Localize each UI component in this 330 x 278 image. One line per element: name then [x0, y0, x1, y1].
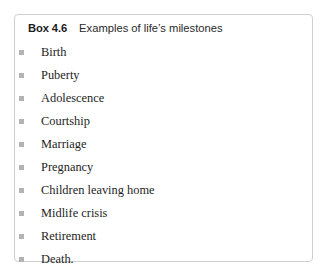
list-item: Pregnancy [15, 156, 312, 179]
list-item-label: Adolescence [41, 91, 104, 105]
list-item: Courtship [15, 110, 312, 133]
box-header: Box 4.6Examples of life’s milestones [28, 22, 223, 34]
square-bullet-icon [19, 96, 24, 101]
list-item: Birth [15, 41, 312, 64]
list-item: Children leaving home [15, 179, 312, 202]
list-item: Death. [15, 248, 312, 271]
list-item-label: Marriage [41, 137, 86, 151]
square-bullet-icon [19, 73, 24, 78]
list-item-label: Children leaving home [41, 183, 155, 197]
list-item: Marriage [15, 133, 312, 156]
list-item: Retirement [15, 225, 312, 248]
list-item-label: Pregnancy [41, 160, 93, 174]
list-item-label: Courtship [41, 114, 90, 128]
list-item: Adolescence [15, 87, 312, 110]
list-item-label: Midlife crisis [41, 206, 107, 220]
square-bullet-icon [19, 50, 24, 55]
square-bullet-icon [19, 142, 24, 147]
list-item-label: Birth [41, 45, 66, 59]
box-title: Examples of life’s milestones [79, 22, 222, 34]
square-bullet-icon [19, 188, 24, 193]
box-container: Box 4.6Examples of life’s milestones Bir… [14, 14, 313, 262]
square-bullet-icon [19, 211, 24, 216]
list-item: Midlife crisis [15, 202, 312, 225]
list-item-label: Retirement [41, 229, 96, 243]
square-bullet-icon [19, 257, 24, 262]
square-bullet-icon [19, 119, 24, 124]
list-item: Puberty [15, 64, 312, 87]
list-item-label: Death. [41, 252, 74, 266]
milestones-list: Birth Puberty Adolescence Courtship Marr… [15, 41, 312, 271]
square-bullet-icon [19, 165, 24, 170]
square-bullet-icon [19, 234, 24, 239]
box-number-label: Box 4.6 [28, 22, 67, 34]
list-item-label: Puberty [41, 68, 80, 82]
